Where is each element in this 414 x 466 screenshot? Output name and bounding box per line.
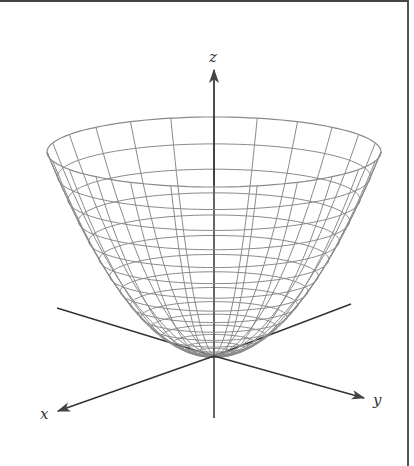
front-axes [58, 356, 364, 418]
back-axes [57, 304, 351, 356]
y-axis [214, 356, 364, 398]
x-axis-label: x [40, 405, 49, 423]
x-axis [58, 356, 214, 411]
paraboloid-diagram: z x y [0, 0, 414, 466]
z-axis-label: z [208, 48, 217, 66]
y-axis-label: y [372, 391, 382, 409]
